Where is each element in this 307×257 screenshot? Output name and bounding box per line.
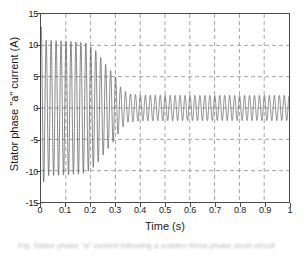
xtick-label: 0.5: [152, 206, 178, 215]
xtick-label: 0.3: [102, 206, 128, 215]
xtick-label: 0.8: [227, 206, 253, 215]
y-axis-title: Stator phase "a" current (A): [8, 6, 20, 202]
figure-caption: Fig. Stator phase "a" current following …: [18, 241, 293, 251]
xtick-label: 0.4: [127, 206, 153, 215]
xtick-label: 0.7: [202, 206, 228, 215]
xtick-label: 0: [27, 206, 53, 215]
figure-container: 15 10 5 0 -5 -10 -15 0 0.1 0.2 0.3 0.4 0…: [0, 0, 307, 257]
xtick-label: 0.9: [252, 206, 278, 215]
plot-area: [40, 13, 290, 203]
x-axis-title: Time (s): [40, 220, 290, 232]
xtick-label: 0.6: [177, 206, 203, 215]
xtick-label: 0.1: [52, 206, 78, 215]
xtick-label: 0.2: [77, 206, 103, 215]
stator-current-waveform: [41, 14, 289, 202]
xtick-label: 1: [277, 206, 303, 215]
